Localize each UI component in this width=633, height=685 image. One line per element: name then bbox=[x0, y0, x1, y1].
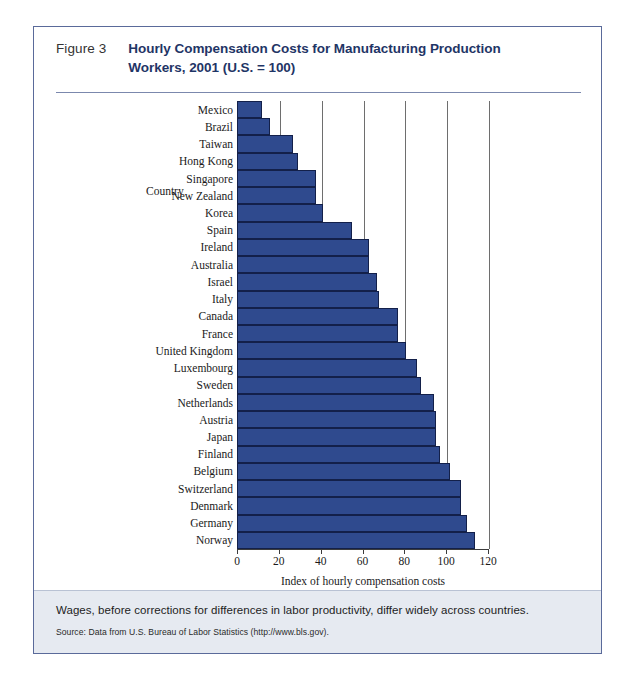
category-label-hong-kong: Hong Kong bbox=[53, 155, 233, 167]
bar-brazil bbox=[237, 118, 270, 135]
x-tick-120 bbox=[488, 550, 489, 554]
bar-belgium bbox=[237, 463, 450, 480]
bar-chart: Country Index of hourly compensation cos… bbox=[34, 93, 603, 588]
category-label-luxembourg: Luxembourg bbox=[53, 362, 233, 374]
figure-title-line-2: Workers, 2001 (U.S. = 100) bbox=[128, 59, 500, 78]
bar-korea bbox=[237, 204, 323, 221]
category-label-france: France bbox=[53, 328, 233, 340]
bar-row bbox=[237, 308, 488, 325]
bar-singapore bbox=[237, 170, 316, 187]
x-tick-80 bbox=[404, 550, 405, 554]
bar-austria bbox=[237, 411, 436, 428]
bar-spain bbox=[237, 222, 352, 239]
bar-row bbox=[237, 273, 488, 290]
category-label-new-zealand: New Zealand bbox=[53, 190, 233, 202]
bar-row bbox=[237, 222, 488, 239]
bar-row bbox=[237, 359, 488, 376]
x-tick-label-60: 60 bbox=[357, 555, 369, 567]
x-tick-label-100: 100 bbox=[438, 555, 455, 567]
bar-france bbox=[237, 325, 398, 342]
bar-row bbox=[237, 342, 488, 359]
bar-israel bbox=[237, 273, 377, 290]
bar-row bbox=[237, 532, 488, 549]
bar-row bbox=[237, 101, 488, 118]
bar-row bbox=[237, 463, 488, 480]
category-label-finland: Finland bbox=[53, 448, 233, 460]
category-label-norway: Norway bbox=[53, 534, 233, 546]
bar-row bbox=[237, 291, 488, 308]
bar-japan bbox=[237, 428, 436, 445]
bar-row bbox=[237, 325, 488, 342]
bar-new-zealand bbox=[237, 187, 316, 204]
figure-frame: Figure 3 Hourly Compensation Costs for M… bbox=[33, 26, 602, 654]
bar-row bbox=[237, 377, 488, 394]
bar-row bbox=[237, 118, 488, 135]
bar-taiwan bbox=[237, 135, 293, 152]
category-label-netherlands: Netherlands bbox=[53, 397, 233, 409]
category-label-mexico: Mexico bbox=[53, 104, 233, 116]
caption-band: Wages, before corrections for difference… bbox=[34, 590, 601, 653]
bar-switzerland bbox=[237, 480, 461, 497]
bar-canada bbox=[237, 308, 398, 325]
category-label-sweden: Sweden bbox=[53, 379, 233, 391]
bar-row bbox=[237, 411, 488, 428]
bar-row bbox=[237, 446, 488, 463]
category-label-spain: Spain bbox=[53, 224, 233, 236]
category-label-denmark: Denmark bbox=[53, 500, 233, 512]
bar-hong-kong bbox=[237, 153, 298, 170]
bar-italy bbox=[237, 291, 379, 308]
bar-row bbox=[237, 480, 488, 497]
x-tick-60 bbox=[363, 550, 364, 554]
bar-luxembourg bbox=[237, 359, 417, 376]
category-label-ireland: Ireland bbox=[53, 241, 233, 253]
bar-row bbox=[237, 428, 488, 445]
bar-row bbox=[237, 135, 488, 152]
source-text: Source: Data from U.S. Bureau of Labor S… bbox=[56, 627, 579, 637]
bar-norway bbox=[237, 532, 475, 549]
bar-row bbox=[237, 256, 488, 273]
x-tick-100 bbox=[446, 550, 447, 554]
category-label-austria: Austria bbox=[53, 414, 233, 426]
figure-title-line-1: Hourly Compensation Costs for Manufactur… bbox=[128, 40, 500, 59]
figure-header: Figure 3 Hourly Compensation Costs for M… bbox=[34, 27, 601, 77]
bar-australia bbox=[237, 256, 369, 273]
category-label-italy: Italy bbox=[53, 293, 233, 305]
x-tick-label-20: 20 bbox=[273, 555, 285, 567]
x-tick-20 bbox=[279, 550, 280, 554]
bar-denmark bbox=[237, 497, 461, 514]
x-tick-label-120: 120 bbox=[479, 555, 496, 567]
bar-united-kingdom bbox=[237, 342, 406, 359]
bar-netherlands bbox=[237, 394, 434, 411]
category-label-germany: Germany bbox=[53, 517, 233, 529]
x-tick-label-80: 80 bbox=[399, 555, 411, 567]
x-tick-label-0: 0 bbox=[234, 555, 240, 567]
bar-row bbox=[237, 204, 488, 221]
bar-sweden bbox=[237, 377, 421, 394]
caption-text: Wages, before corrections for difference… bbox=[56, 604, 579, 616]
category-label-brazil: Brazil bbox=[53, 121, 233, 133]
category-label-japan: Japan bbox=[53, 431, 233, 443]
category-label-united-kingdom: United Kingdom bbox=[53, 345, 233, 357]
bar-finland bbox=[237, 446, 440, 463]
bar-row bbox=[237, 497, 488, 514]
category-label-canada: Canada bbox=[53, 310, 233, 322]
category-label-israel: Israel bbox=[53, 276, 233, 288]
bar-row bbox=[237, 394, 488, 411]
bar-germany bbox=[237, 515, 467, 532]
x-tick-40 bbox=[321, 550, 322, 554]
gridline-120 bbox=[489, 101, 490, 549]
bar-row bbox=[237, 153, 488, 170]
category-label-korea: Korea bbox=[53, 207, 233, 219]
figure-number: Figure 3 bbox=[56, 40, 106, 56]
category-label-singapore: Singapore bbox=[53, 173, 233, 185]
bar-ireland bbox=[237, 239, 369, 256]
bar-row bbox=[237, 515, 488, 532]
category-label-taiwan: Taiwan bbox=[53, 138, 233, 150]
category-label-switzerland: Switzerland bbox=[53, 483, 233, 495]
bar-mexico bbox=[237, 101, 262, 118]
x-axis-title: Index of hourly compensation costs bbox=[237, 575, 489, 587]
bar-row bbox=[237, 239, 488, 256]
bar-row bbox=[237, 170, 488, 187]
figure-title: Hourly Compensation Costs for Manufactur… bbox=[128, 40, 500, 77]
bar-row bbox=[237, 187, 488, 204]
